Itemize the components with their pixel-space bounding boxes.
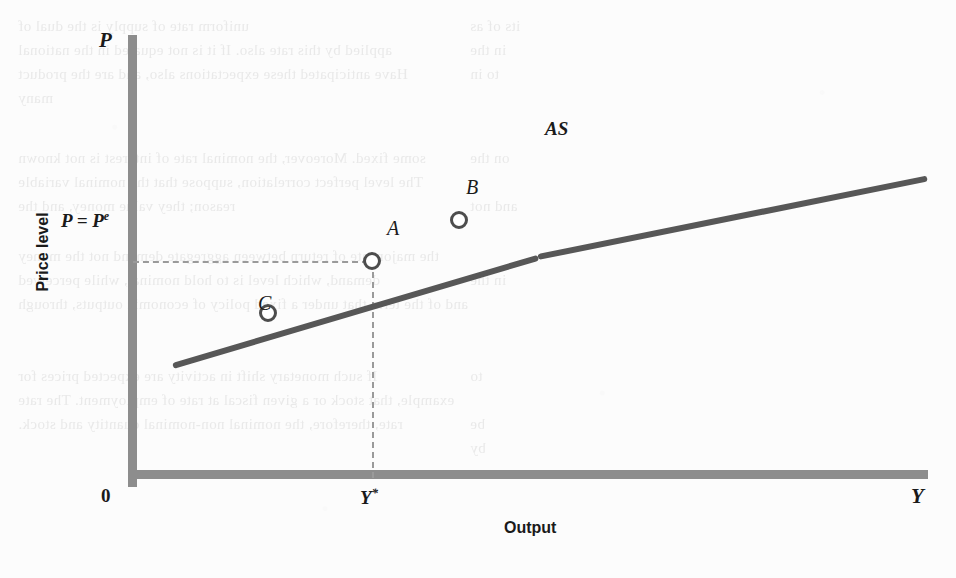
as-curve-label: AS <box>545 118 568 140</box>
data-point-b[interactable] <box>450 211 468 229</box>
aggregate-supply-figure: uniform rate of supply is the dual of ap… <box>0 0 956 578</box>
equilibrium-price-label: P = Pe <box>61 209 109 232</box>
potential-output-label: Y* <box>360 485 378 509</box>
y-axis-title: Price level <box>34 192 52 312</box>
potential-output-text: Y <box>360 487 372 508</box>
data-point-c-label: C <box>258 292 271 315</box>
x-axis-variable-label: Y <box>911 484 924 509</box>
origin-label: 0 <box>101 485 111 507</box>
x-axis-title: Output <box>504 519 556 537</box>
data-point-a-label: A <box>387 217 399 240</box>
equilibrium-price-guide-line <box>133 261 368 263</box>
y-axis-variable-label: P <box>99 28 112 53</box>
equilibrium-price-superscript: e <box>104 209 109 223</box>
plot-area: P Y AS P = Pe Y* 0 Price level Output A … <box>0 0 956 578</box>
data-point-b-label: B <box>466 176 478 199</box>
as-curve-segment <box>538 176 929 260</box>
potential-output-superscript: * <box>372 485 379 500</box>
as-curve-segment <box>172 254 539 368</box>
equilibrium-price-text: P = P <box>61 210 104 231</box>
x-axis <box>128 470 928 479</box>
data-point-a[interactable] <box>363 252 381 270</box>
